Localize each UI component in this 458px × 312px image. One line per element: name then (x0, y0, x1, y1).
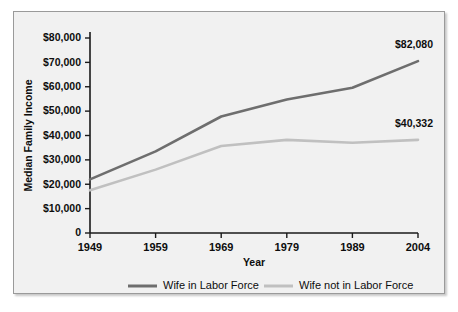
y-axis-ticks: 0$10,000$20,000$30,000$40,000$50,000$60,… (43, 31, 90, 238)
legend-label: Wife in Labor Force (163, 279, 259, 291)
y-tick-label: $40,000 (43, 129, 81, 141)
line-chart: 0$10,000$20,000$30,000$40,000$50,000$60,… (14, 12, 444, 293)
x-tick-label: 1989 (340, 241, 364, 253)
x-tick-label: 1949 (78, 241, 102, 253)
y-tick-label: $60,000 (43, 80, 81, 92)
series-line (90, 140, 418, 190)
y-tick-label: $10,000 (43, 202, 81, 214)
x-axis-ticks: 194919591969197919892004 (78, 233, 431, 253)
endpoint-value-label: $82,080 (395, 38, 433, 50)
y-tick-label: $50,000 (43, 104, 81, 116)
x-tick-label: 1959 (143, 241, 167, 253)
y-axis-title: Median Family Income (22, 79, 34, 191)
y-tick-label: $30,000 (43, 153, 81, 165)
x-tick-label: 2004 (406, 241, 431, 253)
chart-legend: Wife in Labor ForceWife not in Labor For… (128, 279, 413, 291)
endpoint-value-label: $40,332 (395, 117, 433, 129)
series-lines (90, 61, 418, 190)
x-axis-title: Year (243, 256, 265, 268)
legend-label: Wife not in Labor Force (299, 279, 413, 291)
y-tick-label: 0 (75, 226, 81, 238)
y-tick-label: $20,000 (43, 178, 81, 190)
chart-figure: 0$10,000$20,000$30,000$40,000$50,000$60,… (13, 11, 445, 294)
endpoint-annotations: $82,080$40,332 (395, 38, 433, 129)
y-tick-label: $80,000 (43, 31, 81, 43)
x-tick-label: 1979 (275, 241, 299, 253)
x-tick-label: 1969 (209, 241, 233, 253)
series-line (90, 61, 418, 179)
y-tick-label: $70,000 (43, 56, 81, 68)
